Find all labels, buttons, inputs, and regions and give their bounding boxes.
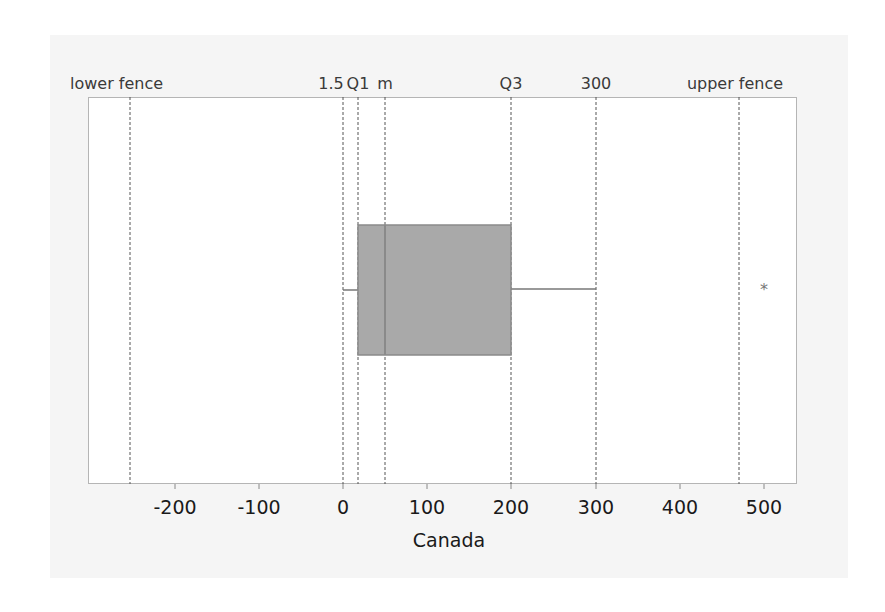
iqr-box bbox=[358, 225, 511, 355]
x-tick-label: 500 bbox=[746, 496, 782, 518]
x-tick-label: 300 bbox=[578, 496, 614, 518]
x-axis-label: Canada bbox=[413, 529, 485, 551]
x-tick-label: 0 bbox=[337, 496, 349, 518]
x-tick-label: 100 bbox=[409, 496, 445, 518]
upper-fence-label: upper fence bbox=[687, 74, 783, 93]
median-label: m bbox=[377, 74, 393, 93]
q1-label: Q1 bbox=[347, 74, 370, 93]
x-tick-label: 200 bbox=[493, 496, 529, 518]
q3-label: Q3 bbox=[500, 74, 523, 93]
lower-fence-label: lower fence bbox=[70, 74, 163, 93]
outlier-marker: * bbox=[760, 280, 768, 299]
x-tick-label: 400 bbox=[662, 496, 698, 518]
x-tick-label: -200 bbox=[153, 496, 196, 518]
three-hundred-label: 300 bbox=[581, 74, 612, 93]
x-tick-label: -100 bbox=[237, 496, 280, 518]
boxplot-svg: * lower fence 1.5 Q1 m Q3 300 upper fenc… bbox=[0, 0, 885, 612]
one-point-five-label: 1.5 bbox=[318, 74, 343, 93]
